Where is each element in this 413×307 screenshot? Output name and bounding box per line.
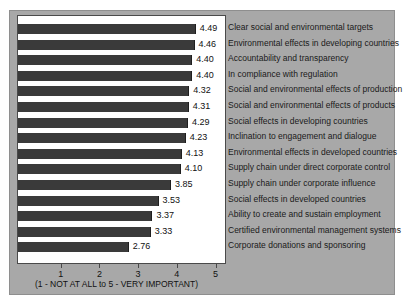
bar — [18, 242, 129, 252]
category-label: Environmental effects in developed count… — [228, 147, 397, 158]
bar-value-label: 4.40 — [196, 53, 214, 65]
bar — [18, 86, 189, 96]
category-label: Inclination to engagement and dialogue — [228, 131, 376, 142]
bar — [18, 102, 189, 112]
bar — [18, 40, 195, 50]
bar-value-label: 3.53 — [163, 194, 181, 206]
bar — [18, 133, 186, 143]
category-label: Supply chain under direct corporate cont… — [228, 162, 390, 173]
chart-figure: 4.494.464.404.404.324.314.294.234.134.10… — [9, 10, 395, 295]
bar-series: 4.494.464.404.404.324.314.294.234.134.10… — [18, 16, 225, 263]
category-label: Supply chain under corporate influence — [228, 178, 375, 189]
bar — [18, 24, 196, 34]
x-tick-label: 5 — [209, 268, 223, 280]
bar — [18, 227, 151, 237]
bar — [18, 55, 192, 65]
x-axis-caption: (1 - NOT AT ALL to 5 - VERY IMPORTANT) — [35, 279, 198, 289]
bar — [18, 164, 181, 174]
bar — [18, 196, 159, 206]
category-label-panel: Clear social and environmental targetsEn… — [228, 15, 389, 264]
bar-value-label: 4.49 — [200, 22, 218, 34]
category-label: Corporate donations and sponsoring — [228, 240, 366, 251]
bar — [18, 71, 192, 81]
bar-value-label: 4.32 — [193, 84, 211, 96]
bar-value-label: 3.37 — [156, 209, 174, 221]
bar-value-label: 3.33 — [155, 225, 173, 237]
bar-value-label: 4.31 — [193, 100, 211, 112]
category-label: Clear social and environmental targets — [228, 22, 373, 33]
bar-value-label: 4.10 — [185, 162, 203, 174]
bar-value-label: 3.85 — [175, 178, 193, 190]
bar-value-label: 4.29 — [192, 116, 210, 128]
category-label: Social effects in developed countries — [228, 194, 366, 205]
bar-value-label: 4.46 — [199, 38, 217, 50]
category-label: In compliance with regulation — [228, 69, 338, 80]
plot-area: 4.494.464.404.404.324.314.294.234.134.10… — [17, 15, 226, 264]
bar-value-label: 4.23 — [190, 131, 208, 143]
category-label: Social and environmental effects of prod… — [228, 84, 402, 95]
bar-value-label: 4.40 — [196, 69, 214, 81]
bar — [18, 118, 188, 128]
category-label: Social effects in developing countries — [228, 116, 368, 127]
bar — [18, 211, 152, 221]
category-label: Social and environmental effects of prod… — [228, 100, 395, 111]
category-label: Accountability and transparency — [228, 53, 349, 64]
category-label: Ability to create and sustain employment — [228, 209, 381, 220]
bar — [18, 180, 171, 190]
bar-value-label: 2.76 — [133, 240, 151, 252]
category-label: Environmental effects in developing coun… — [228, 38, 399, 49]
bar-value-label: 4.13 — [186, 147, 204, 159]
category-label: Certified environmental management syste… — [228, 225, 401, 236]
bar — [18, 149, 182, 159]
